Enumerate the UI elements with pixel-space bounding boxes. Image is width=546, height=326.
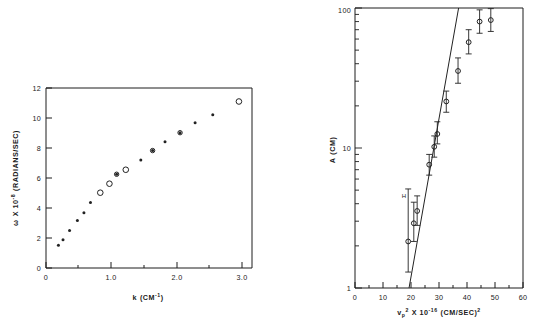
data-point-filled-0 [57, 244, 60, 247]
xlabel-symbol: k [132, 293, 137, 302]
x-ticklabel-0: 0 [44, 273, 48, 282]
y-ticklabel-2: 2 [37, 234, 41, 243]
ylabel-unit: (RADIANS/SEC) [11, 130, 20, 191]
y-ticklabel-0: 0 [37, 264, 41, 273]
amplitude-x-ticklabels: 0 10 20 30 40 50 60 [353, 293, 527, 302]
xlabel-times: X 10 [412, 308, 429, 317]
dispersion-y-ticklabels: 0 2 4 6 8 10 12 [32, 84, 41, 273]
ylabel-symbol: ω [11, 219, 20, 226]
data-point-filled-12 [211, 113, 214, 116]
svg-text:k(CM-1): k(CM-1) [132, 292, 163, 302]
xlabel-sup: 2 [405, 307, 408, 313]
amplitude-plot-panel: 1 10 100 0 10 20 30 40 50 60 vp2X 10-16(… [273, 0, 546, 326]
data-point-filled-1 [62, 238, 65, 241]
data-point-8 [466, 30, 472, 54]
y-ticklabel-6: 6 [37, 174, 41, 183]
data-point-9 [477, 10, 483, 33]
data-point-0 [405, 189, 411, 272]
x-ticklabel-20: 20 [407, 293, 416, 302]
ylabel-unit: (CM) [328, 137, 337, 155]
data-point-filled-11 [194, 121, 197, 124]
y-ticklabel-10: 10 [342, 144, 351, 153]
data-point-filled-10 [179, 131, 182, 134]
x-ticklabel-0: 0 [353, 293, 357, 302]
data-point-open-2 [123, 167, 129, 173]
dispersion-x-ticks [46, 262, 242, 268]
data-point-10 [488, 9, 494, 32]
dispersion-filled-points [57, 113, 214, 247]
x-ticklabel-50: 50 [491, 293, 500, 302]
x-ticklabel-40: 40 [463, 293, 472, 302]
dispersion-y-ticks [46, 88, 52, 268]
ylabel-symbol: A [328, 158, 337, 164]
amplitude-y-axislabel: A(CM) [328, 137, 337, 164]
data-point-filled-2 [68, 229, 71, 232]
data-point-filled-5 [89, 201, 92, 204]
data-point-open-1 [107, 181, 113, 187]
dispersion-plot-svg: 0 2 4 6 8 10 12 0 1.0 2.0 [0, 0, 273, 326]
data-point-filled-7 [139, 159, 142, 162]
amplitude-y-ticks [355, 8, 362, 288]
svg-text:A(CM): A(CM) [328, 137, 337, 164]
amplitude-y-ticklabels: 1 10 100 [338, 6, 351, 293]
data-point-open-3 [236, 99, 242, 105]
dispersion-x-ticklabels: 0 1.0 2.0 3.0 [44, 273, 248, 282]
svg-text:vp2X 10-16(CM/SEC)2: vp2X 10-16(CM/SEC)2 [397, 307, 481, 318]
xlabel-exp: -16 [429, 307, 438, 313]
amplitude-x-ticks [355, 282, 523, 288]
y-ticklabel-10: 10 [32, 114, 41, 123]
data-point-filled-8 [151, 149, 154, 152]
x-ticklabel-10: 10 [379, 293, 388, 302]
x-ticklabel-3p0: 3.0 [237, 273, 248, 282]
ylabel-times: X 10 [11, 200, 20, 217]
dispersion-plot-panel: 0 2 4 6 8 10 12 0 1.0 2.0 [0, 0, 273, 326]
amplitude-x-axislabel: vp2X 10-16(CM/SEC)2 [397, 307, 481, 318]
y-ticklabel-100: 100 [338, 6, 351, 15]
dispersion-y-axislabel: ωX 10-8(RADIANS/SEC) [10, 130, 20, 226]
x-ticklabel-1p0: 1.0 [106, 273, 117, 282]
amplitude-plot-svg: 1 10 100 0 10 20 30 40 50 60 vp2X 10-16(… [273, 0, 546, 326]
dispersion-axes [46, 88, 252, 268]
data-point-filled-3 [76, 219, 79, 222]
data-point-1 [411, 202, 417, 241]
data-point-filled-6 [115, 173, 118, 176]
svg-text:ωX 10-8(RADIANS/SEC): ωX 10-8(RADIANS/SEC) [10, 130, 20, 226]
annotation-h: H [402, 193, 406, 199]
dispersion-open-points [97, 99, 241, 196]
dispersion-x-axislabel: k(CM-1) [132, 292, 163, 302]
x-ticklabel-30: 30 [435, 293, 444, 302]
figure-container: 0 2 4 6 8 10 12 0 1.0 2.0 [0, 0, 546, 326]
x-ticklabel-2p0: 2.0 [172, 273, 183, 282]
y-ticklabel-12: 12 [32, 84, 41, 93]
xlabel-unit-close: ) [161, 293, 164, 302]
data-point-6 [443, 91, 449, 112]
data-point-7 [455, 58, 461, 83]
data-point-open-0 [97, 190, 103, 196]
y-ticklabel-1: 1 [347, 284, 351, 293]
data-point-filled-4 [82, 211, 85, 214]
xlabel-unit-open: (CM [140, 293, 155, 302]
data-point-filled-9 [164, 140, 167, 143]
ylabel-exp: -8 [10, 194, 16, 200]
y-ticklabel-8: 8 [37, 144, 41, 153]
x-ticklabel-60: 60 [519, 293, 528, 302]
xlabel-unit-exp: 2 [477, 307, 480, 313]
y-ticklabel-4: 4 [37, 204, 41, 213]
amplitude-axes [355, 8, 523, 288]
xlabel-unit: (CM/SEC) [441, 308, 478, 317]
